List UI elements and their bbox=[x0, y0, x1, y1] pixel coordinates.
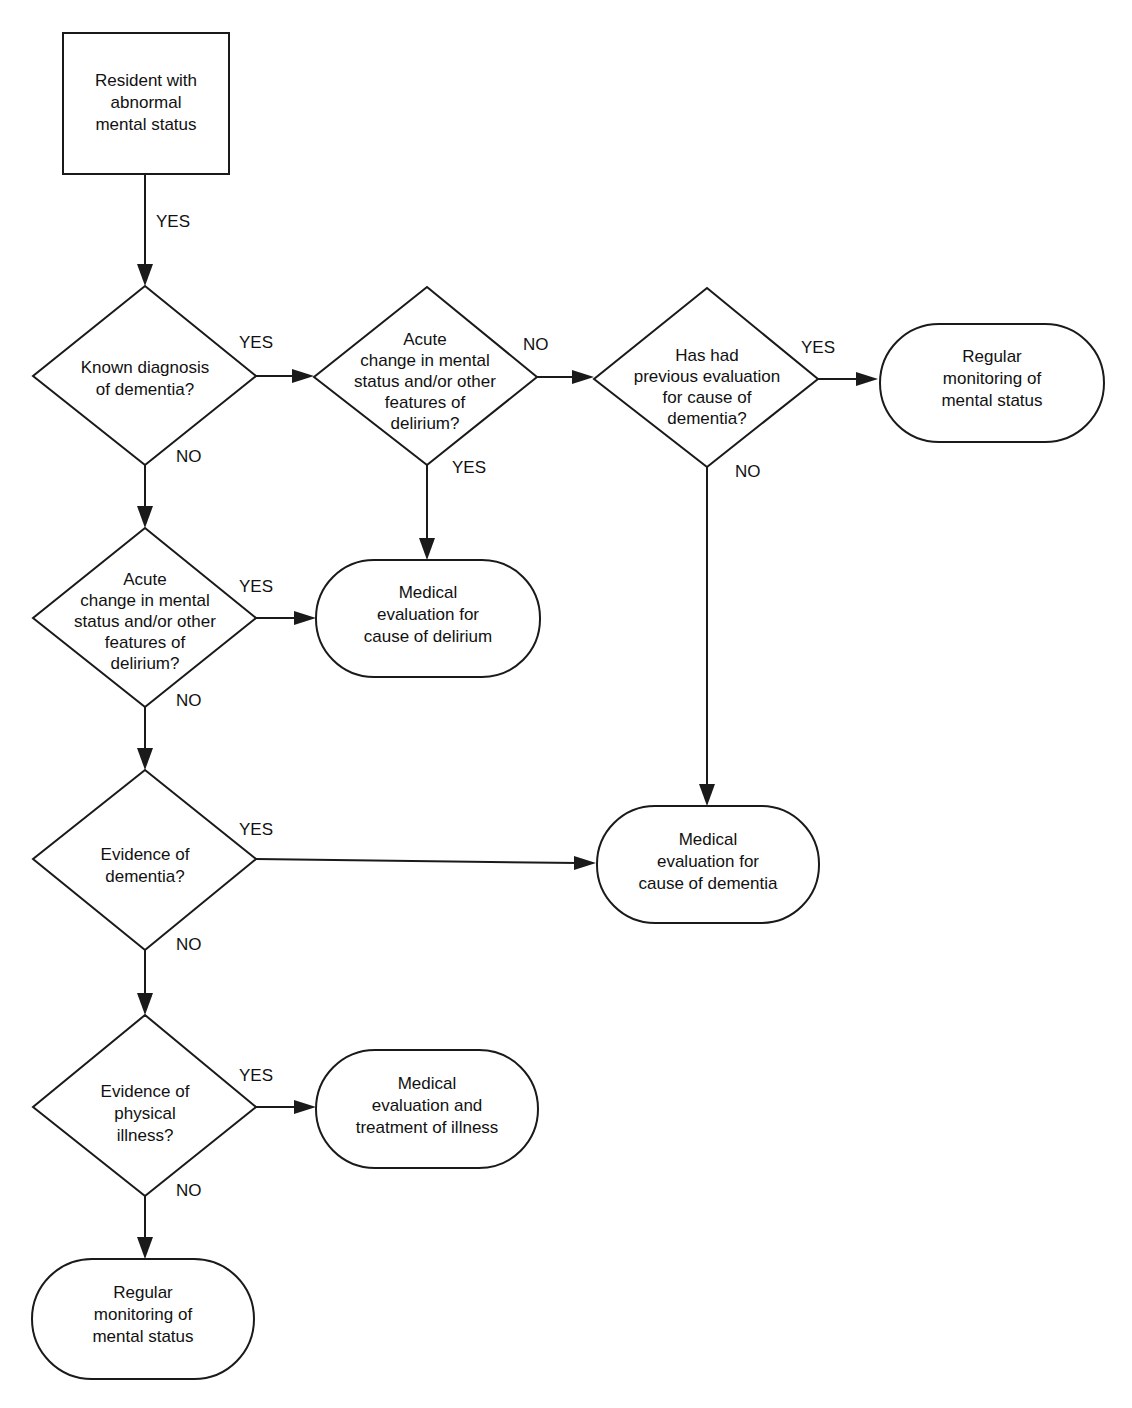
node-text: delirium? bbox=[391, 414, 460, 433]
node-text: monitoring of bbox=[94, 1305, 193, 1324]
arrowhead-icon bbox=[292, 369, 314, 383]
node-text: Has had bbox=[675, 346, 738, 365]
node-text: cause of dementia bbox=[639, 874, 778, 893]
edge-label: YES bbox=[156, 212, 190, 231]
terminal-regular-monitoring-bottom: Regular monitoring of mental status bbox=[32, 1259, 254, 1379]
node-text: Regular bbox=[962, 347, 1022, 366]
flowchart: Resident with abnormal mental status Kno… bbox=[0, 0, 1132, 1408]
node-text: mental status bbox=[941, 391, 1042, 410]
node-text: change in mental bbox=[360, 351, 489, 370]
node-text: Medical bbox=[679, 830, 738, 849]
node-text: evaluation and bbox=[372, 1096, 483, 1115]
node-text: evaluation for bbox=[657, 852, 759, 871]
node-text: mental status bbox=[92, 1327, 193, 1346]
terminal-eval-illness: Medical evaluation and treatment of illn… bbox=[316, 1050, 538, 1168]
arrowhead-icon bbox=[137, 506, 153, 528]
node-text: Medical bbox=[399, 583, 458, 602]
edge-label: NO bbox=[176, 691, 202, 710]
terminal-eval-delirium: Medical evaluation for cause of delirium bbox=[316, 560, 540, 677]
node-text: treatment of illness bbox=[356, 1118, 499, 1137]
arrowhead-icon bbox=[699, 784, 715, 806]
node-text: status and/or other bbox=[354, 372, 496, 391]
decision-evidence-dementia: Evidence of dementia? bbox=[33, 770, 256, 950]
node-text: Acute bbox=[403, 330, 446, 349]
decision-previous-evaluation: Has had previous evaluation for cause of… bbox=[594, 288, 818, 467]
node-text: mental status bbox=[95, 115, 196, 134]
node-text: Medical bbox=[398, 1074, 457, 1093]
edge-label: NO bbox=[176, 447, 202, 466]
node-text: Regular bbox=[113, 1283, 173, 1302]
node-start: Resident with abnormal mental status bbox=[63, 33, 229, 174]
node-text: Evidence of bbox=[101, 845, 190, 864]
node-text: Known diagnosis bbox=[81, 358, 210, 377]
node-text: illness? bbox=[117, 1126, 174, 1145]
node-text: delirium? bbox=[111, 654, 180, 673]
edge-label: NO bbox=[176, 1181, 202, 1200]
node-text: previous evaluation bbox=[634, 367, 780, 386]
node-text: evaluation for bbox=[377, 605, 479, 624]
node-text: Evidence of bbox=[101, 1082, 190, 1101]
node-text: physical bbox=[114, 1104, 175, 1123]
edge-label: NO bbox=[735, 462, 761, 481]
arrowhead-icon bbox=[572, 370, 594, 384]
node-text: change in mental bbox=[80, 591, 209, 610]
node-text: dementia? bbox=[667, 409, 746, 428]
arrowhead-icon bbox=[137, 264, 153, 286]
arrowhead-icon bbox=[137, 993, 153, 1015]
arrowhead-icon bbox=[137, 1237, 153, 1259]
arrowhead-icon bbox=[419, 538, 435, 560]
edge-label: NO bbox=[176, 935, 202, 954]
arrowhead-icon bbox=[137, 748, 153, 770]
node-text: monitoring of bbox=[943, 369, 1042, 388]
node-text: abnormal bbox=[111, 93, 182, 112]
node-text: for cause of bbox=[663, 388, 752, 407]
edge-label: YES bbox=[239, 577, 273, 596]
node-text: Acute bbox=[123, 570, 166, 589]
edge-label: YES bbox=[239, 820, 273, 839]
arrowhead-icon bbox=[574, 856, 596, 870]
edge-label: YES bbox=[801, 338, 835, 357]
edge-label: NO bbox=[523, 335, 549, 354]
node-text: of dementia? bbox=[96, 380, 194, 399]
edge-label: YES bbox=[239, 333, 273, 352]
decision-evidence-illness: Evidence of physical illness? bbox=[33, 1015, 256, 1196]
node-text: features of bbox=[105, 633, 186, 652]
edge-label: YES bbox=[239, 1066, 273, 1085]
decision-acute-change-left: Acute change in mental status and/or oth… bbox=[33, 528, 256, 707]
arrowhead-icon bbox=[856, 372, 878, 386]
node-text: Resident with bbox=[95, 71, 197, 90]
terminal-eval-dementia: Medical evaluation for cause of dementia bbox=[597, 806, 819, 923]
node-text: status and/or other bbox=[74, 612, 216, 631]
edge-label: YES bbox=[452, 458, 486, 477]
terminal-regular-monitoring-top: Regular monitoring of mental status bbox=[880, 324, 1104, 442]
node-text: dementia? bbox=[105, 867, 184, 886]
decision-acute-change-top: Acute change in mental status and/or oth… bbox=[314, 287, 537, 465]
edge-evidence-dementia-yes bbox=[256, 859, 578, 863]
arrowhead-icon bbox=[294, 611, 316, 625]
arrowhead-icon bbox=[294, 1100, 316, 1114]
node-text: features of bbox=[385, 393, 466, 412]
decision-known-dementia: Known diagnosis of dementia? bbox=[33, 286, 256, 465]
node-text: cause of delirium bbox=[364, 627, 493, 646]
